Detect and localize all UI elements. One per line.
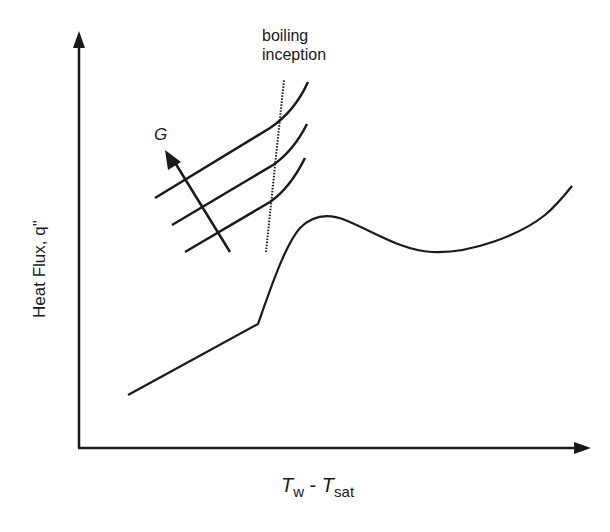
g-label: G	[154, 125, 167, 145]
y-axis-arrow-icon	[73, 31, 85, 48]
x-axis-arrow-icon	[574, 442, 591, 454]
x-label-t2: T	[322, 474, 334, 496]
x-label-sub2: sat	[334, 483, 354, 500]
main-boiling-curve	[128, 186, 572, 395]
y-axis-label: Heat Flux, q"	[30, 220, 50, 318]
y-axis	[73, 31, 85, 448]
g-arrow	[165, 150, 230, 252]
boiling-curve-diagram	[0, 0, 610, 532]
annotation-line1: boiling	[262, 26, 326, 45]
annotation-line2: inception	[262, 45, 326, 64]
x-label-sep: -	[304, 474, 322, 496]
x-label-sub1: w	[293, 483, 304, 500]
flow-curve-low-g	[185, 158, 305, 252]
x-axis-label: Tw - Tsat	[281, 474, 354, 500]
boiling-inception-line	[266, 80, 284, 252]
boiling-inception-label: boiling inception	[262, 26, 326, 64]
x-axis	[78, 442, 591, 454]
x-label-t1: T	[281, 474, 293, 496]
flow-curve-high-g	[155, 82, 308, 198]
